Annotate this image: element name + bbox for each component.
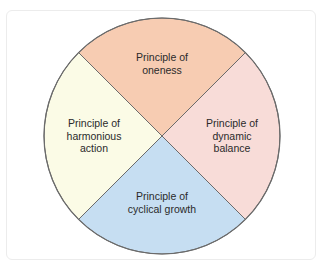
label-line: Principle of	[44, 117, 144, 130]
label-line: Principle of	[112, 190, 212, 203]
label-line: Principle of	[182, 117, 282, 130]
label-oneness: Principle of oneness	[112, 51, 212, 76]
label-line: oneness	[112, 64, 212, 77]
label-cyclical-growth: Principle of cyclical growth	[112, 190, 212, 215]
label-line: action	[44, 142, 144, 155]
label-line: cyclical growth	[112, 203, 212, 216]
label-line: harmonious	[44, 130, 144, 143]
label-line: Principle of	[112, 51, 212, 64]
label-line: dynamic	[182, 130, 282, 143]
label-harmonious-action: Principle of harmonious action	[44, 117, 144, 155]
label-line: balance	[182, 142, 282, 155]
label-dynamic-balance: Principle of dynamic balance	[182, 117, 282, 155]
